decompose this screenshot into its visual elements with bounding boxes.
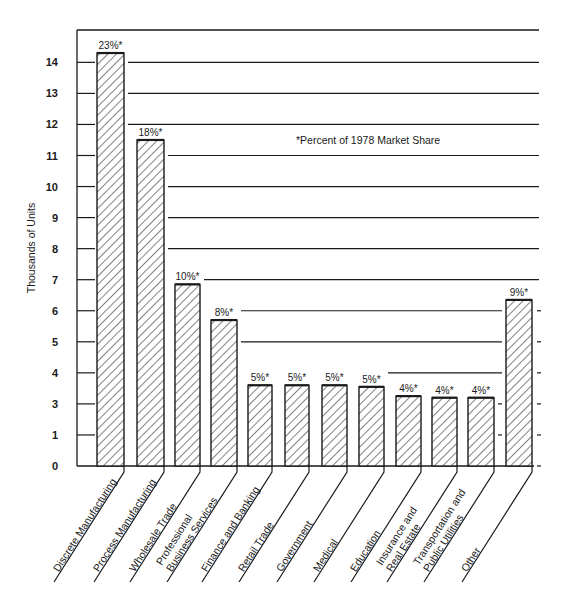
x-category-label-line: Other: [458, 545, 483, 574]
y-tick-label: 12: [46, 118, 58, 130]
bar: [322, 385, 347, 466]
x-category-label: Other: [458, 545, 483, 574]
bar-percent-label: 18%*: [139, 127, 163, 138]
y-tick-label: 11: [46, 150, 58, 162]
bar-percent-label: 4%*: [435, 385, 453, 396]
bar-percent-label: 4%*: [472, 385, 490, 396]
y-tick-label: 6: [52, 305, 58, 317]
bar: [97, 53, 124, 466]
x-category-label-line: Government: [273, 518, 314, 573]
bar: [468, 398, 494, 466]
y-tick-label: 4: [52, 367, 59, 379]
bar-percent-label: 5%*: [288, 372, 306, 383]
y-tick-label: 3: [52, 398, 58, 410]
bar: [506, 300, 532, 466]
y-tick-label: 8: [52, 243, 58, 255]
market-share-footnote: *Percent of 1978 Market Share: [296, 134, 440, 146]
y-tick-label: 9: [52, 212, 58, 224]
x-category-label: Government: [273, 518, 314, 573]
bar: [359, 387, 384, 466]
x-category-label-line: Medical: [310, 537, 340, 574]
bar: [396, 396, 421, 466]
y-tick-label: 13: [46, 87, 58, 99]
x-category-label: Medical: [310, 537, 340, 574]
y-tick-label: 1: [52, 429, 58, 441]
x-category-label-line: Retail Trade: [235, 519, 276, 573]
x-category-label: Retail Trade: [235, 519, 276, 573]
bar-percent-label: 9%*: [510, 287, 528, 298]
x-category-label-line: Education: [347, 528, 382, 574]
bar-percent-label: 23%*: [99, 40, 123, 51]
bar-percent-label: 4%*: [399, 383, 417, 394]
x-category-label: Education: [347, 528, 382, 574]
y-tick-label: 7: [52, 274, 58, 286]
bar: [137, 140, 164, 466]
bar: [432, 398, 457, 466]
y-tick-label: 14: [46, 56, 59, 68]
y-axis-title: Thousands of Units: [25, 203, 37, 293]
bar: [211, 320, 237, 466]
bar: [248, 385, 272, 466]
y-tick-label: 10: [46, 181, 58, 193]
bar-percent-label: 5%*: [362, 374, 380, 385]
bar-percent-label: 5%*: [325, 372, 343, 383]
y-tick-label: 0: [52, 460, 58, 472]
bar: [175, 284, 200, 466]
market-share-bar-chart: 0134567891011121314 23%*18%*10%*8%*5%*5%…: [0, 0, 568, 604]
bar-percent-label: 5%*: [251, 372, 269, 383]
bar-percent-label: 8%*: [215, 307, 233, 318]
bars: 23%*18%*10%*8%*5%*5%*5%*5%*4%*4%*4%*9%*: [96, 40, 535, 466]
bar: [285, 385, 309, 466]
category-labels: Discrete ManufacturingProcess Manufactur…: [50, 466, 532, 582]
y-tick-label: 5: [52, 336, 58, 348]
bar-percent-label: 10%*: [176, 271, 200, 282]
chart-canvas: 0134567891011121314 23%*18%*10%*8%*5%*5%…: [0, 0, 568, 604]
